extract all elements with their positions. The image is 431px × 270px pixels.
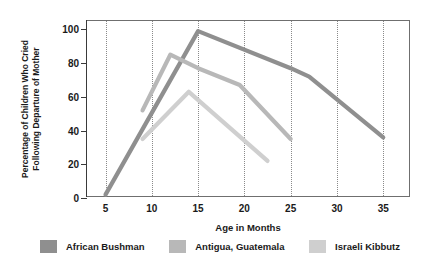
x-axis-tick-label: 15 (193, 203, 204, 214)
y-axis-tick-label: 60 (68, 91, 79, 102)
x-axis-tick-label: 10 (146, 203, 157, 214)
legend-swatch (309, 240, 326, 253)
legend-label: African Bushman (66, 241, 145, 252)
x-axis-tick-label: 30 (331, 203, 342, 214)
y-axis-tick-mark (81, 198, 87, 199)
series-line (106, 31, 384, 195)
x-axis-tick-label: 20 (239, 203, 250, 214)
y-axis-tick-label: 20 (68, 159, 79, 170)
series-canvas (87, 21, 411, 198)
series-line (143, 92, 268, 161)
chart-legend: African BushmanAntigua, GuatemalaIsraeli… (40, 240, 400, 253)
y-axis-title-line-2: Following Departure of Mother (31, 47, 41, 170)
y-axis-title-line-1: Percentage of Children Who Cried (20, 40, 30, 178)
legend-item[interactable]: Antigua, Guatemala (169, 240, 284, 253)
y-axis-tick-label: 100 (62, 24, 79, 35)
series-line (143, 55, 291, 139)
y-axis-tick-label: 40 (68, 125, 79, 136)
legend-item[interactable]: African Bushman (40, 240, 145, 253)
plot-area: 5101520253035020406080100 (86, 20, 410, 197)
y-axis-tick-label: 80 (68, 58, 79, 69)
legend-label: Israeli Kibbutz (335, 241, 400, 252)
x-axis-title: Age in Months (86, 222, 410, 233)
legend-swatch (40, 240, 57, 253)
y-axis-tick-label: 0 (73, 193, 79, 204)
x-axis-tick-label: 5 (103, 203, 109, 214)
legend-label: Antigua, Guatemala (195, 241, 284, 252)
chart-figure: Percentage of Children Who Cried Followi… (0, 0, 431, 270)
x-axis-tick-label: 25 (285, 203, 296, 214)
x-axis-tick-label: 35 (378, 203, 389, 214)
legend-swatch (169, 240, 186, 253)
y-axis-title: Percentage of Children Who Cried Followi… (14, 20, 48, 197)
legend-item[interactable]: Israeli Kibbutz (309, 240, 400, 253)
